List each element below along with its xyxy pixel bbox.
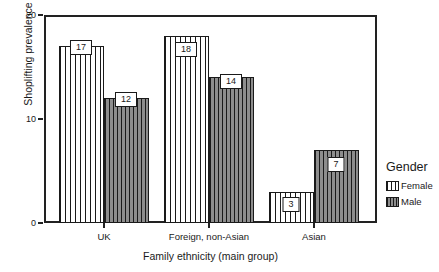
x-tick-mark-uk [103, 223, 105, 228]
legend-item-female: Female [386, 181, 439, 191]
plot-area [44, 15, 377, 223]
value-label-asian-male: 7 [327, 157, 344, 172]
x-tick-label-uk: UK [97, 231, 110, 242]
legend-label-male: Male [401, 197, 422, 207]
bar-chart: Shoplifting prevalence 20 10 0 17 12 18 … [0, 0, 439, 272]
x-tick-mark-foreign [208, 223, 210, 228]
y-tick-mark-10 [38, 118, 43, 120]
bar-foreign-female [164, 36, 209, 223]
value-label-asian-female: 3 [282, 197, 299, 212]
legend-swatch-female-icon [386, 181, 399, 191]
x-tick-mark-asian [313, 223, 315, 228]
x-axis-title: Family ethnicity (main group) [44, 250, 377, 262]
legend-label-female: Female [401, 181, 433, 191]
bar-foreign-male [209, 77, 254, 223]
legend-item-male: Male [386, 197, 439, 207]
value-label-uk-female: 17 [70, 40, 92, 55]
y-tick-mark-20 [38, 14, 43, 16]
value-label-uk-male: 12 [115, 92, 137, 107]
x-tick-label-foreign: Foreign, non-Asian [169, 231, 249, 242]
bar-uk-male [104, 98, 149, 223]
legend-swatch-male-icon [386, 197, 399, 207]
x-tick-label-asian: Asian [302, 231, 326, 242]
y-tick-mark-0 [38, 222, 43, 224]
bar-uk-female [59, 46, 104, 223]
legend-title: Gender [386, 160, 439, 174]
value-label-foreign-male: 14 [220, 74, 242, 89]
legend: Gender Female Male [386, 160, 439, 213]
value-label-foreign-female: 18 [175, 42, 197, 57]
